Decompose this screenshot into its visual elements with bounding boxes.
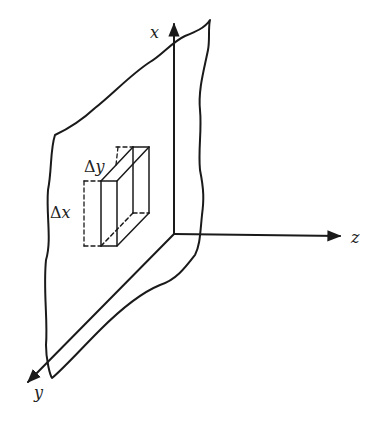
z-axis-label: z bbox=[350, 228, 360, 247]
y-axis-label: y bbox=[33, 383, 44, 402]
x-axis-label: x bbox=[150, 23, 159, 42]
delta-x-label: Δx bbox=[50, 203, 71, 222]
sheet-outline bbox=[45, 20, 210, 378]
diagram-canvas: x z y Δy Δx bbox=[0, 0, 376, 425]
z-axis bbox=[174, 234, 340, 236]
y-axis bbox=[28, 234, 174, 382]
volume-element bbox=[101, 147, 149, 246]
delta-y-label: Δy bbox=[84, 157, 106, 176]
